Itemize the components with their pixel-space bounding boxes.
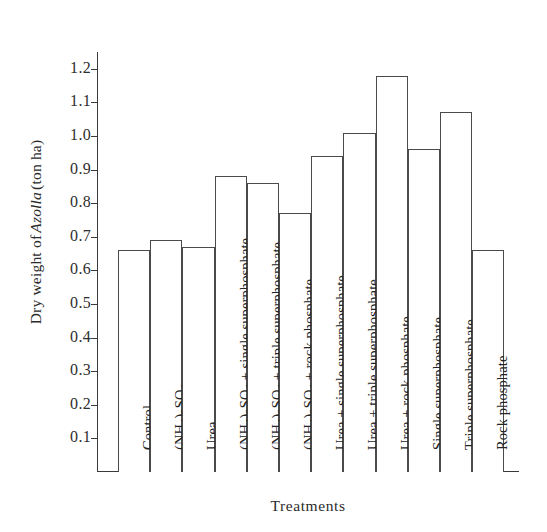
y-tick-label: 0.3 — [70, 361, 91, 379]
y-tick-label: 0.6 — [70, 260, 91, 278]
y-tick-label: 1.1 — [70, 92, 91, 110]
y-axis-title-prefix: Dry weight of — [27, 235, 45, 325]
bar[interactable]: Rock phosphate — [472, 250, 504, 472]
bar[interactable]: Control — [118, 250, 150, 472]
bar[interactable]: (NH4)2SO4 + single superphosphate — [215, 176, 247, 472]
y-tick-label: 0.9 — [70, 160, 91, 178]
bar-category-label: Rock phosphate — [496, 355, 511, 449]
bar[interactable]: Urea + triple superphosphate — [343, 133, 375, 472]
y-tick-label: 0.2 — [70, 395, 91, 413]
bar[interactable]: Urea + single superphosphate — [311, 156, 343, 472]
y-tick-label: 0.5 — [70, 294, 91, 312]
y-tick-label: 0.4 — [70, 328, 91, 346]
plot-area: 0.10.20.30.40.50.60.70.80.91.01.11.2 Con… — [97, 52, 519, 472]
y-tick-label: 0.1 — [70, 428, 91, 446]
y-tick-label: 0.8 — [70, 193, 91, 211]
x-axis-title: Treatments — [97, 497, 519, 515]
bar[interactable]: Single superphosphate — [408, 149, 440, 472]
bar-chart-figure: Dry weight of Azolla (ton ha) 0.10.20.30… — [0, 0, 547, 532]
bar-series: Control(NH4)2SO4Urea(NH4)2SO4 + single s… — [97, 52, 519, 472]
bar[interactable]: Urea + rock phosphate — [376, 76, 408, 472]
bar[interactable]: (NH4)2SO4 + rock phosphate — [279, 213, 311, 472]
bar[interactable]: Triple superphosphate — [440, 112, 472, 472]
y-axis-title-suffix: (ton ha) — [27, 140, 45, 190]
y-tick-label: 1.0 — [70, 126, 91, 144]
y-tick-label: 0.7 — [70, 227, 91, 245]
bar[interactable]: (NH4)2SO4 + triple superphosphate — [247, 183, 279, 472]
bar[interactable]: (NH4)2SO4 — [150, 240, 182, 472]
y-axis-title: Dry weight of Azolla (ton ha) — [22, 12, 50, 452]
bar[interactable]: Urea — [182, 247, 214, 472]
y-tick-label: 1.2 — [70, 59, 91, 77]
y-axis-title-italic-azolla: Azolla — [27, 190, 45, 235]
